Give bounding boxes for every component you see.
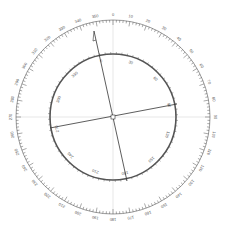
outer-tick <box>133 209 134 211</box>
outer-tick <box>201 81 203 82</box>
outer-label: 210 <box>57 201 66 209</box>
outer-tick <box>83 25 84 27</box>
inner-label: 30 <box>128 59 135 65</box>
outer-tick <box>179 47 181 49</box>
outer-tick <box>189 173 191 174</box>
inner-label: 300 <box>55 95 62 104</box>
outer-tick <box>21 146 23 147</box>
outer-label: 60 <box>198 63 205 70</box>
outer-tick <box>67 200 68 202</box>
outer-tick <box>189 60 191 61</box>
outer-tick <box>39 55 43 58</box>
outer-label: 350 <box>91 13 99 19</box>
outer-tick <box>193 163 197 166</box>
outer-label: 190 <box>91 215 99 221</box>
outer-tick <box>20 143 22 144</box>
outer-tick <box>27 71 29 72</box>
outer-tick <box>70 202 71 204</box>
outer-tick <box>41 180 43 182</box>
outer-tick <box>176 187 178 189</box>
outer-tick <box>183 52 185 54</box>
outer-tick <box>39 176 43 179</box>
outer-tick <box>48 45 50 47</box>
outer-tick <box>93 22 94 24</box>
outer-tick <box>151 203 152 205</box>
outer-label: 250 <box>13 147 20 156</box>
outer-tick <box>46 47 48 49</box>
outer-tick <box>166 195 167 197</box>
center-pivot-icon <box>111 115 115 119</box>
outer-label: 90 <box>213 115 218 120</box>
outer-tick <box>26 74 28 75</box>
inner-label: 240 <box>66 151 75 160</box>
outer-tick <box>59 37 60 39</box>
outer-tick <box>51 43 54 47</box>
outer-tick <box>43 50 45 52</box>
outer-tick <box>187 57 189 59</box>
outer-tick <box>62 35 63 37</box>
outer-tick <box>203 87 205 88</box>
outer-tick <box>96 21 97 26</box>
outer-tick <box>41 52 43 54</box>
outer-tick <box>80 203 82 208</box>
compass-diagram: 0102030405060708090100110120130140150160… <box>0 0 227 235</box>
outer-label: 300 <box>20 61 28 70</box>
outer-tick <box>172 187 175 191</box>
outer-tick <box>148 27 149 29</box>
outer-tick <box>139 208 140 210</box>
outer-tick <box>19 94 21 95</box>
outer-tick <box>86 24 87 26</box>
outer-tick <box>33 63 35 64</box>
compass-rose-svg: 0102030405060708090100110120130140150160… <box>0 0 227 235</box>
outer-label: 170 <box>126 215 134 221</box>
outer-label: 320 <box>43 34 52 43</box>
outer-label: 270 <box>8 113 13 120</box>
outer-label: 110 <box>206 148 213 156</box>
outer-label: 160 <box>143 210 152 217</box>
outer-tick <box>151 28 152 30</box>
outer-tick <box>191 63 193 64</box>
outer-tick <box>65 197 68 201</box>
outer-tick <box>157 200 158 202</box>
outer-tick <box>33 170 35 171</box>
outer-tick <box>74 203 75 205</box>
outer-tick <box>59 195 60 197</box>
outer-tick <box>159 33 162 37</box>
outer-label: 20 <box>145 18 152 24</box>
outer-tick <box>196 161 198 162</box>
outer-tick <box>183 180 185 182</box>
outer-label: 70 <box>206 79 212 86</box>
outer-tick <box>205 140 207 141</box>
outer-tick <box>27 161 29 162</box>
outer-tick <box>198 158 200 159</box>
outer-tick <box>203 146 205 147</box>
inner-label: 150 <box>147 156 156 165</box>
outer-tick <box>193 69 197 72</box>
outer-tick <box>51 187 54 191</box>
outer-label: 50 <box>188 48 195 55</box>
outer-label: 330 <box>58 24 67 32</box>
outer-tick <box>37 57 39 59</box>
outer-tick <box>163 35 164 37</box>
outer-tick <box>70 30 71 32</box>
outer-tick <box>199 84 204 86</box>
outer-label: 120 <box>197 164 205 173</box>
outer-tick <box>204 143 206 144</box>
inner-label: 330 <box>70 70 79 79</box>
outer-tick <box>17 133 22 134</box>
outer-tick <box>129 21 130 26</box>
outer-tick <box>18 97 20 98</box>
outer-tick <box>83 207 84 209</box>
outer-tick <box>18 137 20 138</box>
outer-tick <box>139 24 140 26</box>
outer-tick <box>21 87 23 88</box>
outer-label: 240 <box>20 163 28 172</box>
outer-tick <box>74 28 75 30</box>
outer-tick <box>24 78 26 79</box>
outer-tick <box>31 167 33 168</box>
outer-tick <box>187 175 189 177</box>
outer-tick <box>136 23 137 25</box>
outer-tick <box>154 30 155 32</box>
outer-tick <box>171 41 173 43</box>
outer-tick <box>65 33 68 37</box>
